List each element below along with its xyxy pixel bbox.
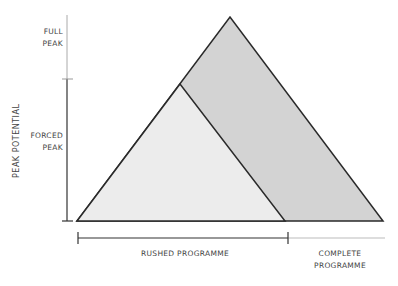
full-peak-line1: FULL — [20, 26, 63, 38]
complete-programme-label: COMPLETE PROGRAMME — [300, 248, 380, 272]
forced-peak-line1: FORCED — [14, 130, 63, 142]
complete-programme-line2: PROGRAMME — [300, 260, 380, 272]
full-peak-label: FULL PEAK — [20, 26, 63, 50]
forced-peak-line2: PEAK — [14, 142, 63, 154]
forced-peak-label: FORCED PEAK — [14, 130, 63, 154]
full-peak-line2: PEAK — [20, 38, 63, 50]
rushed-programme-label: RUSHED PROGRAMME — [110, 248, 260, 260]
complete-programme-line1: COMPLETE — [300, 248, 380, 260]
